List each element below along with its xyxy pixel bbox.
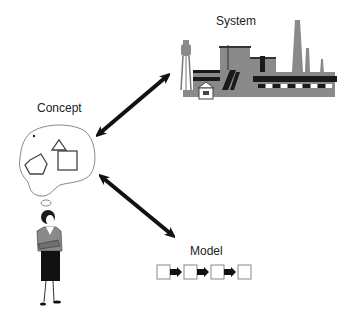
model-label: Model: [190, 244, 223, 258]
windows-row: [258, 84, 332, 88]
thought-bubble-icon: [19, 125, 94, 206]
concept-label: Concept: [37, 101, 82, 115]
water-tower-icon: [181, 40, 191, 90]
woman-thinking-icon: [37, 210, 62, 306]
block-chain-icon: [157, 265, 251, 279]
diagram-canvas: [0, 0, 347, 322]
arrow-concept-system: [100, 77, 166, 133]
factory-icon: [181, 20, 337, 99]
arrow-concept-model: [103, 178, 171, 234]
system-label: System: [216, 14, 256, 28]
